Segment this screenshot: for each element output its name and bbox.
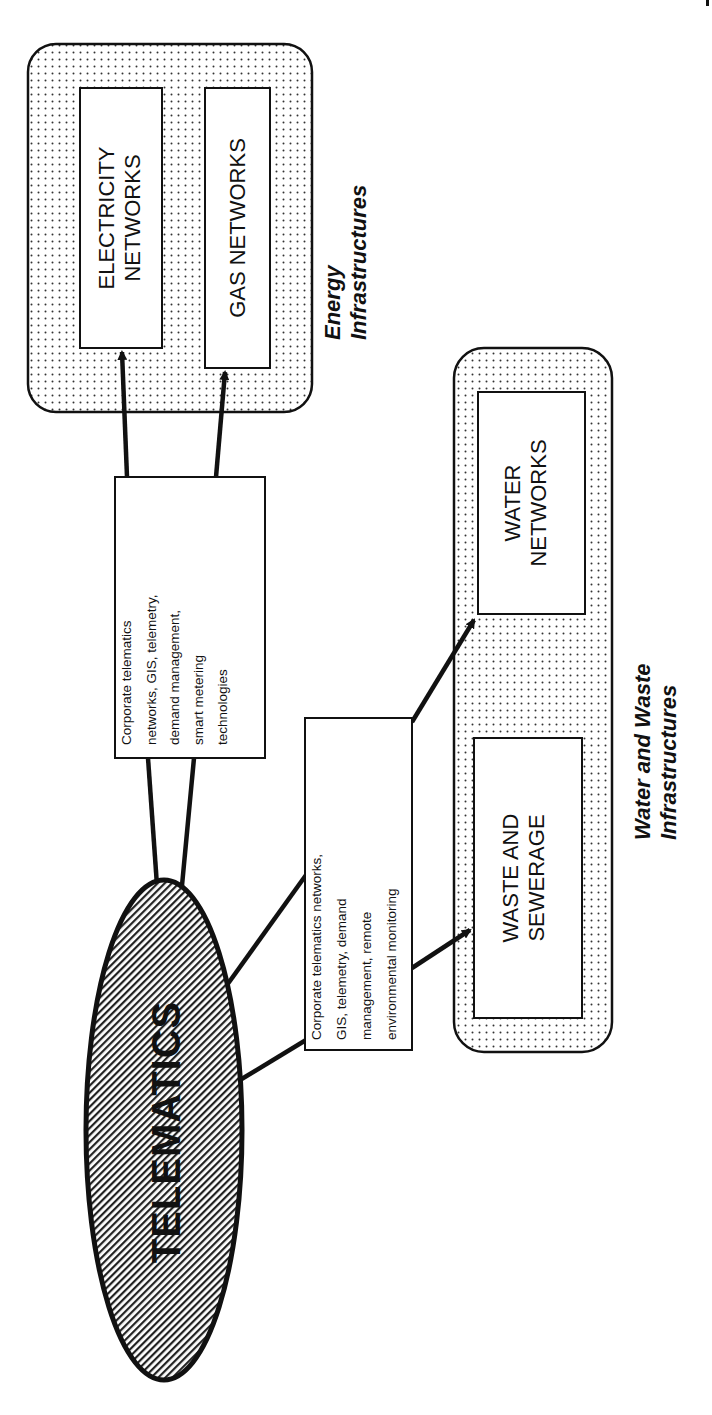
telematics-infrastructure-diagram: ELECTRICITY NETWORKS GAS NETWORKS Energy… [0, 0, 712, 1415]
energy-desc-line2: networks, GIS, telemetry, [144, 594, 159, 745]
energy-technologies-box: Corporate telematics networks, GIS, tele… [115, 477, 265, 758]
electricity-line1: ELECTRICITY [94, 146, 119, 289]
energy-desc-line4: smart metering [191, 655, 206, 745]
energy-desc-line1: Corporate telematics [119, 620, 134, 745]
telematics-hub[interactable]: TELEMATICS [86, 880, 242, 1380]
water-desc-line4: environmental monitoring [384, 888, 399, 1040]
water-desc-line2: GIS, telemetry, demand [334, 898, 349, 1040]
page-edge-mark [706, 0, 709, 6]
water-desc-line3: management, remote [359, 912, 374, 1040]
telematics-label: TELEMATICS [144, 1001, 188, 1264]
energy-desc-line3: demand management, [167, 610, 182, 745]
water-waste-technologies-box: Corporate telematics networks, GIS, tele… [305, 718, 412, 1050]
electricity-line2: NETWORKS [120, 154, 145, 281]
gas-label: GAS NETWORKS [225, 138, 250, 318]
water-waste-label-line2: Infrastructures [656, 685, 681, 840]
energy-label-line1: Energy [320, 264, 345, 340]
gas-networks-node[interactable]: GAS NETWORKS [205, 88, 270, 368]
water-networks-node[interactable]: WATER NETWORKS [478, 392, 585, 614]
waste-line2: SEWERAGE [524, 814, 549, 941]
water-desc-line1: Corporate telematics networks, [309, 854, 324, 1040]
water-line1: WATER [500, 465, 525, 542]
water-waste-label-line1: Water and Waste [630, 664, 655, 840]
electricity-networks-node[interactable]: ELECTRICITY NETWORKS [80, 88, 162, 348]
energy-group-label: Energy Infrastructures [320, 185, 371, 340]
waste-sewerage-node[interactable]: WASTE AND SEWERAGE [474, 738, 582, 1018]
water-line2: NETWORKS [526, 439, 551, 566]
energy-label-line2: Infrastructures [346, 185, 371, 340]
energy-infrastructures-group: ELECTRICITY NETWORKS GAS NETWORKS [28, 44, 312, 412]
energy-desc-line5: technologies [215, 669, 230, 745]
water-waste-infrastructures-group: WATER NETWORKS WASTE AND SEWERAGE [454, 348, 612, 1052]
waste-line1: WASTE AND [498, 814, 523, 943]
water-waste-group-label: Water and Waste Infrastructures [630, 664, 681, 840]
